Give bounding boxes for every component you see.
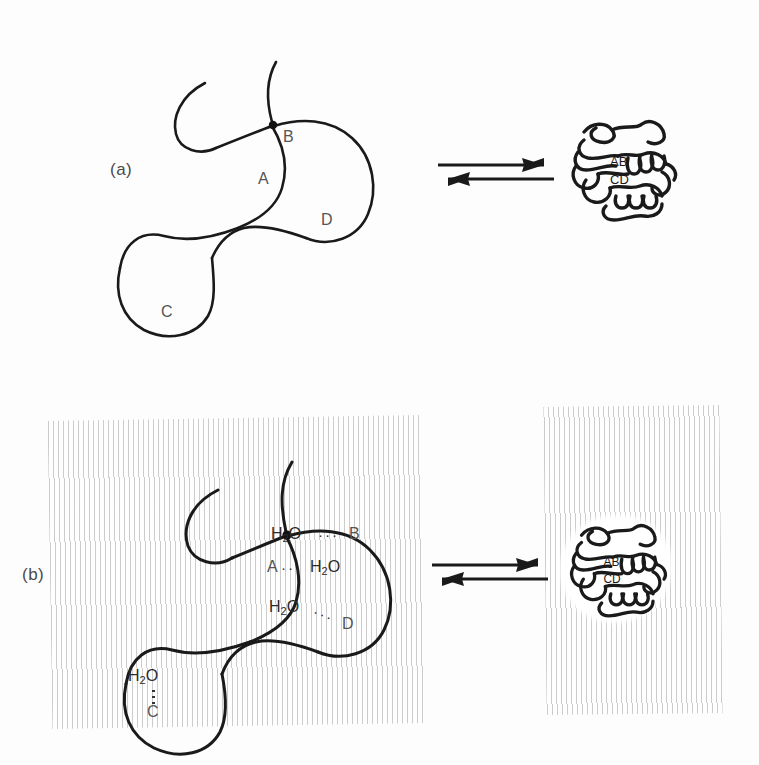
globule-b-core-ab: AB: [604, 555, 620, 569]
unfolded-chain-b: [40, 400, 460, 750]
water-label-b: H2O: [271, 525, 301, 543]
equilibrium-arrow-b: [430, 550, 550, 598]
residue-label-b-a: B: [283, 128, 294, 146]
folded-globule-b: AB CD: [565, 515, 675, 625]
water-label-a: H2O: [310, 558, 340, 576]
hbond-water-a: ···: [281, 559, 302, 576]
globule-b-core-cd: CD: [604, 572, 622, 586]
residue-label-d-b: D: [342, 615, 354, 633]
water-label-c: H2O: [128, 667, 158, 685]
figure-canvas: (a) B A D C: [0, 0, 759, 765]
chain-crossing-node-a: [269, 121, 277, 129]
globule-a-core-cd: CD: [610, 172, 629, 187]
folded-globule-a: AB CD: [566, 110, 686, 230]
residue-label-c-b: C: [147, 703, 159, 721]
unfolded-chain-a: [0, 0, 420, 380]
residue-label-a-b: A: [267, 558, 278, 576]
hbond-water-b: ···: [318, 526, 339, 543]
equilibrium-arrow-a: [436, 150, 556, 198]
residue-label-d-a: D: [321, 211, 333, 229]
globule-a-core-ab: AB: [610, 154, 627, 169]
residue-label-c-a: C: [161, 303, 173, 321]
water-label-d: H2O: [269, 598, 299, 616]
residue-label-b-b: B: [349, 525, 360, 543]
residue-label-a-a: A: [258, 170, 269, 188]
